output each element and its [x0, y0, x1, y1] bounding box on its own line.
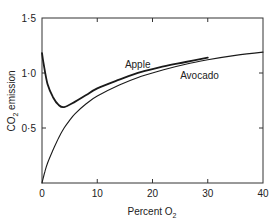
plot-border — [42, 18, 263, 183]
x-tick-label: 10 — [92, 188, 104, 199]
y-tick-label: 0·5 — [22, 123, 37, 134]
y-tick-label: 1·5 — [22, 13, 37, 24]
x-tick-label: 0 — [39, 188, 45, 199]
chart: 010203040 0·51·01·5 AppleAvocado Percent… — [0, 0, 277, 224]
axis-ticks — [42, 18, 263, 183]
x-tick-label: 30 — [202, 188, 214, 199]
y-tick-labels: 0·51·01·5 — [22, 13, 37, 134]
y-axis-title: CO2 emission — [6, 70, 19, 131]
x-axis-title: Percent O2 — [128, 206, 177, 219]
x-tick-label: 20 — [147, 188, 159, 199]
series-label-avocado: Avocado — [180, 70, 219, 81]
series-line-avocado — [42, 52, 263, 183]
plot-frame — [42, 18, 263, 183]
data-series — [42, 52, 263, 183]
y-tick-label: 1·0 — [22, 68, 37, 79]
x-tick-labels: 010203040 — [39, 188, 269, 199]
series-label-apple: Apple — [125, 59, 151, 70]
x-tick-label: 40 — [257, 188, 269, 199]
